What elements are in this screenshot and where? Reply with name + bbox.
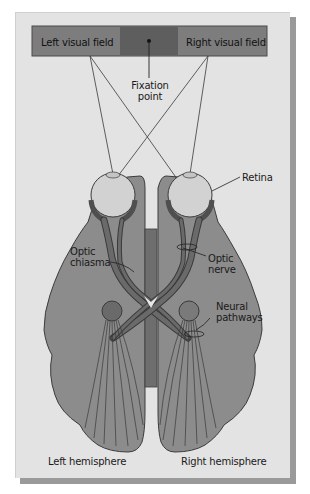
optic-nerve-label: Optic nerve [208, 253, 236, 275]
right-nucleus [179, 301, 199, 321]
retina-label: Retina [242, 172, 273, 183]
left-visual-field-label: Left visual field [41, 37, 114, 49]
optic-chiasma-label: Optic chiasma [70, 246, 110, 268]
fixation-point-label: Fixation point [127, 80, 173, 102]
right-visual-field-label: Right visual field [186, 37, 266, 49]
right-eye [168, 173, 212, 217]
left-nucleus [102, 301, 122, 321]
left-lens [106, 172, 120, 178]
visual-field-bar [32, 26, 267, 78]
visual-pathway-diagram [0, 0, 310, 494]
right-lens [183, 172, 197, 178]
eyes [91, 172, 212, 220]
left-eye [91, 173, 135, 217]
retina-leader [212, 177, 240, 191]
right-hemisphere-label: Right hemisphere [181, 456, 266, 467]
left-hemisphere-label: Left hemisphere [48, 456, 126, 467]
neural-pathways-label: Neural pathways [216, 301, 263, 323]
